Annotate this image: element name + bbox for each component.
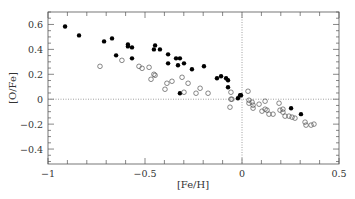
filled-circle-marker — [102, 39, 106, 43]
data-points — [63, 24, 316, 127]
open-circle-marker — [180, 75, 185, 80]
open-circle-marker — [147, 65, 152, 70]
filled-circle-marker — [176, 63, 180, 67]
filled-circle-marker — [130, 56, 134, 60]
open-circle-marker — [163, 87, 168, 92]
filled-circle-marker — [158, 47, 162, 51]
filled-circle-marker — [239, 93, 243, 97]
open-circle-marker — [303, 120, 308, 125]
filled-circle-marker — [174, 56, 178, 60]
open-circle-marker — [251, 106, 256, 111]
open-circle-marker — [228, 105, 233, 110]
y-tick-label: 0.2 — [28, 69, 43, 80]
filled-circle-marker — [130, 45, 134, 49]
filled-circle-marker — [126, 44, 130, 48]
open-circle-marker — [149, 77, 154, 82]
open-circle-marker — [290, 115, 295, 120]
open-circle-marker — [293, 116, 298, 121]
open-circle-marker — [312, 122, 317, 127]
open-circle-marker — [153, 73, 158, 78]
filled-circle-marker — [202, 64, 206, 68]
filled-circle-marker — [77, 33, 81, 37]
filled-circle-marker — [219, 74, 223, 78]
open-circle-marker — [263, 99, 268, 104]
x-axis-label: [Fe/H] — [177, 179, 209, 190]
y-tick-label: 0 — [37, 94, 43, 105]
x-tick-label: −1 — [41, 168, 55, 179]
filled-circle-marker — [114, 53, 118, 57]
open-circle-marker — [186, 81, 191, 86]
filled-circle-marker — [182, 61, 186, 65]
filled-circle-marker — [63, 24, 67, 28]
filled-circle-marker — [299, 112, 303, 116]
filled-circle-marker — [152, 47, 156, 51]
filled-circle-marker — [190, 67, 194, 71]
open-circle-marker — [309, 123, 314, 128]
filled-circle-marker — [166, 61, 170, 65]
x-tick-labels: −1−0.500.5 — [41, 168, 347, 179]
x-tick-label: −0.5 — [133, 168, 156, 179]
open-circle-marker — [277, 101, 282, 106]
filled-circle-marker — [226, 85, 230, 89]
filled-circle-marker — [289, 106, 293, 110]
open-circle-marker — [194, 91, 199, 96]
filled-circle-marker — [226, 78, 230, 82]
y-tick-label: −0.2 — [20, 119, 43, 130]
y-tick-label: 0.4 — [28, 44, 43, 55]
filled-circle-marker — [110, 36, 114, 40]
filled-circle-marker — [215, 76, 219, 80]
x-tick-label: 0.5 — [331, 168, 346, 179]
open-circle-marker — [229, 90, 234, 95]
reference-lines — [48, 12, 339, 164]
y-axis-label: [O/Fe] — [7, 72, 18, 104]
open-circle-marker — [120, 58, 125, 63]
open-circle-marker — [170, 79, 175, 84]
filled-circle-marker — [153, 43, 157, 47]
y-tick-labels: −0.4−0.200.20.40.6 — [20, 19, 43, 155]
open-circle-marker — [182, 90, 187, 95]
scatter-chart: −1−0.500.5 −0.4−0.200.20.40.6 [Fe/H] [O/… — [0, 0, 355, 199]
open-circle-marker — [198, 86, 203, 91]
axis-ticks — [48, 12, 339, 164]
plot-frame — [48, 12, 339, 164]
filled-circle-marker — [178, 56, 182, 60]
open-circle-marker — [165, 81, 170, 86]
filled-circle-marker — [166, 52, 170, 56]
open-circle-marker — [98, 64, 103, 69]
open-circle-marker — [206, 91, 211, 96]
open-circle-marker — [304, 123, 309, 128]
y-tick-label: −0.4 — [20, 144, 43, 155]
plot-border — [48, 12, 339, 164]
open-circle-marker — [257, 102, 262, 107]
open-circle-marker — [246, 89, 251, 94]
x-tick-label: 0 — [239, 168, 245, 179]
y-tick-label: 0.6 — [28, 19, 43, 30]
